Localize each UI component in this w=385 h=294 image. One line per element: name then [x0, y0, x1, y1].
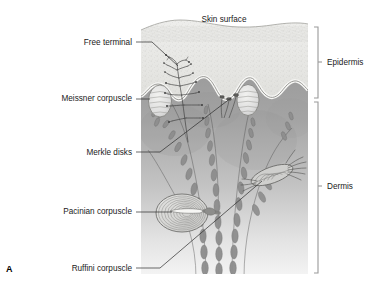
layer-brackets [314, 27, 322, 273]
label-ruffini-corpuscle: Ruffini corpuscle [72, 264, 133, 273]
bracket-dermis [314, 102, 318, 273]
label-dermis: Dermis [327, 182, 353, 191]
skin-surface-label: Skin surface [201, 15, 246, 24]
label-pacinian-corpuscle: Pacinian corpuscle [63, 207, 132, 216]
meissner-left [149, 85, 172, 117]
panel-letter: A [6, 264, 13, 274]
label-epidermis: Epidermis [327, 58, 363, 67]
label-merkle-disks: Merkle disks [87, 148, 133, 157]
label-meissner-corpuscle: Meissner corpuscle [61, 94, 132, 103]
meissner-right [237, 85, 259, 116]
skin-sensory-receptors-figure: Skin surface Free terminal Meissner corp… [0, 0, 385, 294]
label-free-terminal: Free terminal [84, 38, 132, 47]
bracket-epidermis [314, 27, 318, 98]
